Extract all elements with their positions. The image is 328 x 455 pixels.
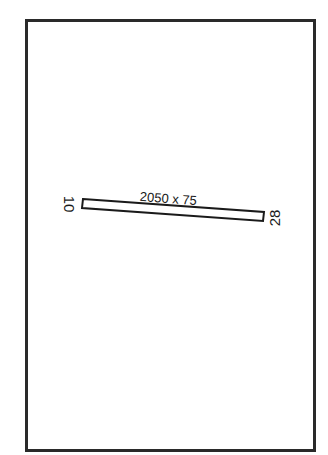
runway-end-28-label: 28 [266,210,283,227]
runway-diagram: 2050 x 75 10 28 [0,0,328,455]
runway-end-10-label: 10 [61,196,78,213]
